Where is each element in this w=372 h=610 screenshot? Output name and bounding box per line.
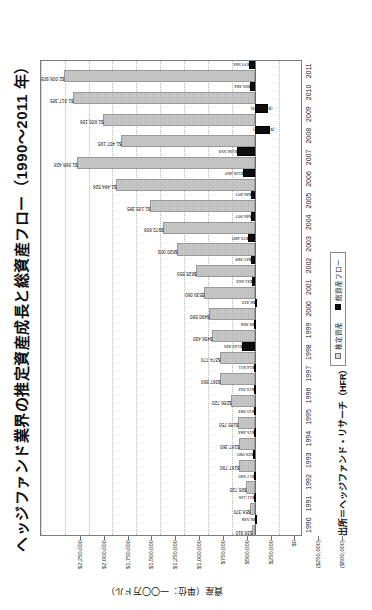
bar-assets [204,287,255,299]
bar-value-label: $55,384 [234,84,250,89]
bar-flow [250,82,255,91]
bar-value-label: $15,484 [238,430,254,435]
page-title: ヘッジファンド業界の推定資産成長と総資産フロー（1990～2011 年） [10,0,31,610]
category-axis-tick: 1991 [305,496,312,512]
value-axis-tick-mark [342,536,343,540]
bar-assets [246,481,255,493]
chart-legend: 推定資産総資産フロー [330,252,346,366]
bar-value-label: $126,460 [225,170,244,175]
bar-flow [251,212,255,221]
bar-value-label: $11,126 [239,495,255,500]
bar-flow [242,342,256,351]
category-axis-tick: 2004 [305,214,312,230]
bar-assets [209,308,256,320]
bar-assets [121,135,255,147]
bar-assets [250,503,256,515]
bar-value-label: $1,464,526 [93,184,117,189]
bar-value-label: $374,770 [201,357,221,362]
bar-assets [220,352,256,364]
value-axis-tick: $500,000 [244,540,250,564]
category-axis-tick: 1990 [305,517,312,533]
gridline [279,61,280,535]
bar-value-label: $8,538 [241,516,255,521]
bar-value-label: $194,553 [219,149,238,154]
bar-assets [73,92,256,104]
bar-assets [163,222,256,234]
bar-value-label: $70,584 [233,62,249,67]
value-axis-tick-mark [271,536,272,540]
gridline [136,61,137,535]
category-axis-tick: 2008 [305,128,312,144]
bar-value-label: ($154,422) [253,127,275,132]
category-axis-tick: 1999 [305,323,312,339]
bar-value-label: $490,580 [190,313,210,318]
value-axis-tick-mark [294,536,295,540]
category-axis-tick: 2000 [305,301,312,317]
bar-value-label: $1,868,428 [54,162,78,167]
category-axis-tick: 2002 [305,258,312,274]
category-axis-tick: 2010 [305,85,312,101]
bar-value-label: $367,560 [201,378,221,383]
bar-assets [239,438,255,450]
value-axis-tick-mark [175,536,176,540]
category-axis-tick: 2009 [305,106,312,122]
bar-value-label: $972,608 [144,227,164,232]
category-axis-tick: 1992 [305,474,312,490]
value-axis-tick-mark [318,536,319,540]
bar-value-label: $1,600,156 [80,119,104,124]
bar-assets [196,265,256,277]
bar-value-label: $185,750 [219,422,239,427]
value-axis-tick-mark [128,536,129,540]
value-axis-tick: $1,000,000 [196,540,202,569]
value-axis-tick-mark [247,536,248,540]
bar-assets [239,460,255,472]
category-axis-tick: 1993 [305,452,312,468]
legend-swatch-assets [335,353,341,359]
bar-flow [249,61,256,69]
category-axis-tick: 1998 [305,344,312,360]
bar-flow [252,277,255,286]
plot-area: $38,910$8,538$58,370$11,126$95,720$17,94… [40,60,302,536]
bar-value-label: $625,550 [177,270,197,275]
category-axis-tick: 1997 [305,366,312,382]
bar-value-label: $2,008,905 [41,75,64,80]
category-axis-tick: 2006 [305,171,312,187]
bar-value-label: $820,009 [158,248,178,253]
bar-value-label: $143,345 [223,343,242,348]
value-axis-tick: ($250,000) [315,540,321,568]
bar-value-label: $167,360 [220,443,240,448]
bar-assets [150,200,255,212]
bar-assets [177,243,255,255]
gridline [112,61,113,535]
bar-assets [77,157,255,169]
value-axis-tick: ($500,000) [339,540,345,568]
value-axis-tick: $1,500,000 [148,540,154,569]
gridline [89,61,90,535]
gridline [65,61,66,535]
bar-value-label: $31,663 [237,278,253,283]
bar-value-label: $167,790 [220,465,240,470]
bar-value-label: $256,720 [212,400,232,405]
legend-item: 推定資産 [333,322,343,359]
value-axis-tick-mark [80,536,81,540]
bar-value-label: $9,968 [241,322,255,327]
value-axis-tick: $1,750,000 [125,540,131,569]
bar-value-label: $1,105,385 [127,205,151,210]
gridline [160,61,161,535]
bar-value-label: $8,322 [241,300,255,305]
bar-value-label: $29,080 [237,451,253,456]
value-axis-tick: $1,250,000 [172,540,178,569]
bar-flow [254,320,256,329]
bar-value-label: ($131,189) [251,105,273,110]
bar-value-label: $456,430 [193,335,213,340]
bar-flow [237,147,256,156]
value-axis: 資産（単位：一〇〇万ドル） $2,250,000$2,000,000$1,750… [40,536,302,610]
bar-flow [254,407,256,416]
bar-flow [251,255,256,264]
legend-label: 総資産フロー [333,259,343,301]
value-axis-tick-mark [223,536,224,540]
value-axis-title: 資産（単位：一〇〇万ドル） [50,585,280,598]
value-axis-tick-mark [104,536,105,540]
legend-swatch-flow [335,304,341,310]
value-axis-tick: $250,000 [268,540,274,564]
